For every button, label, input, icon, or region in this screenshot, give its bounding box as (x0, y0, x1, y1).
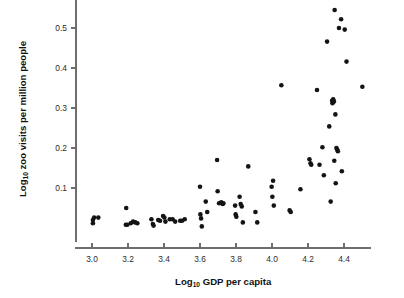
data-point (272, 203, 277, 208)
data-point (239, 204, 244, 209)
y-axis-title: Log10 zoo visits per million people (17, 41, 29, 197)
y-tick-label: 0.5 (55, 23, 67, 33)
x-tick-label: 4.2 (302, 254, 314, 264)
data-point (215, 158, 220, 163)
data-point (255, 220, 260, 225)
data-point (279, 83, 284, 88)
data-point (96, 215, 101, 220)
x-tick-label: 3.8 (230, 254, 242, 264)
scatter-plot-figure: 0.10.20.30.40.53.03.23.43.63.84.04.24.4L… (0, 0, 404, 298)
data-point (307, 157, 312, 162)
data-point (315, 88, 320, 93)
y-tick-label: 0.3 (55, 103, 67, 113)
data-point (320, 145, 325, 150)
y-tick-label: 0.1 (55, 183, 67, 193)
plot-canvas: 0.10.20.30.40.53.03.23.43.63.84.04.24.4L… (0, 0, 404, 298)
data-point (237, 195, 242, 200)
data-point (198, 212, 203, 217)
data-point (241, 220, 246, 225)
data-point (325, 39, 330, 44)
data-point (149, 217, 154, 222)
data-point (332, 8, 337, 13)
data-point (246, 164, 251, 169)
data-point-group (91, 8, 365, 229)
data-point (339, 17, 344, 22)
x-tick-label: 3.2 (122, 254, 134, 264)
data-point (317, 163, 322, 168)
data-point (309, 163, 314, 168)
data-point (337, 26, 342, 31)
data-point (203, 199, 208, 204)
data-point (332, 99, 337, 104)
data-point (151, 223, 156, 228)
data-point (221, 201, 226, 206)
data-point (344, 59, 349, 64)
data-point (333, 112, 338, 117)
x-tick-label: 3.4 (158, 254, 170, 264)
data-point (340, 169, 345, 174)
data-point (162, 215, 167, 220)
x-tick-label: 4.4 (338, 254, 350, 264)
data-point (233, 203, 238, 208)
data-point (215, 189, 220, 194)
data-point (270, 195, 275, 200)
x-axis-title: Log10 GDP per capita (175, 276, 272, 288)
x-tick-label: 3.6 (194, 254, 206, 264)
data-point (298, 187, 303, 192)
data-point (360, 85, 365, 90)
data-point (253, 210, 258, 215)
data-point (333, 181, 338, 186)
data-point (234, 215, 239, 220)
data-point (288, 210, 293, 215)
data-point (271, 179, 276, 184)
data-point (269, 185, 274, 190)
data-point (199, 216, 204, 221)
data-point (200, 224, 205, 229)
data-point (198, 185, 203, 190)
y-tick-label: 0.4 (55, 63, 67, 73)
data-point (342, 27, 347, 32)
data-point (158, 219, 163, 224)
data-point (332, 159, 337, 164)
data-point (124, 206, 129, 211)
y-tick-label: 0.2 (55, 143, 67, 153)
x-tick-label: 4.0 (266, 254, 278, 264)
data-point (336, 149, 341, 154)
data-point (182, 217, 187, 222)
data-point (322, 173, 327, 178)
data-point (205, 210, 210, 215)
x-tick-label: 3.0 (86, 254, 98, 264)
data-point (328, 199, 333, 204)
data-point (135, 221, 140, 226)
data-point (163, 219, 168, 224)
data-point (327, 124, 332, 129)
data-point (92, 215, 97, 220)
data-point (173, 219, 178, 224)
